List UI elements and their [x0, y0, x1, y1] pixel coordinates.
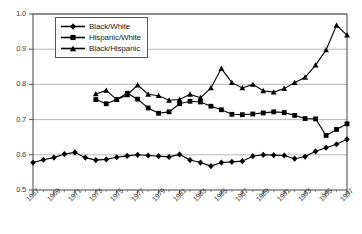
legend-label: Hispanic/White [89, 33, 141, 42]
data-point [198, 100, 203, 105]
data-point [104, 101, 109, 106]
data-point [30, 159, 36, 165]
data-point [250, 153, 256, 159]
legend-marker-diamond-icon [60, 21, 86, 32]
data-point [334, 141, 340, 147]
data-point [334, 127, 339, 132]
data-point [93, 157, 99, 163]
data-point [208, 85, 214, 90]
data-point [135, 82, 141, 87]
data-point [313, 116, 318, 121]
data-point [103, 87, 109, 92]
series-black-white [30, 136, 350, 169]
y-tick-label: 0.6 [4, 150, 26, 159]
legend-marker-square-icon [60, 32, 86, 43]
data-point [219, 107, 224, 112]
data-point [303, 116, 308, 121]
data-point [271, 152, 277, 158]
data-point [51, 155, 57, 161]
line-chart: 1.00.90.80.70.60.5 196719691971197319751… [0, 0, 362, 234]
data-point [260, 88, 266, 93]
data-point [313, 148, 319, 154]
data-point [334, 22, 340, 27]
data-point [292, 80, 298, 85]
data-point [271, 109, 276, 114]
data-point [302, 153, 308, 159]
data-point [219, 66, 225, 71]
legend-item: Black/White [60, 21, 141, 32]
data-point [281, 86, 287, 91]
data-point [93, 97, 98, 102]
data-point [124, 153, 130, 159]
data-point [41, 157, 47, 163]
data-point [188, 99, 193, 104]
data-point [209, 104, 214, 109]
y-tick-label: 0.8 [4, 79, 26, 88]
data-point [344, 136, 350, 142]
legend-item: Black/Hispanic [60, 43, 141, 54]
legend-marker-triangle-icon [60, 43, 86, 54]
data-point [345, 121, 350, 126]
y-tick-label: 0.7 [4, 115, 26, 124]
data-point [198, 159, 204, 165]
legend-item: Hispanic/White [60, 32, 141, 43]
y-tick-label: 1.0 [4, 9, 26, 18]
data-point [282, 110, 287, 115]
data-point [292, 113, 297, 118]
data-point [208, 163, 214, 169]
data-point [240, 112, 245, 117]
data-point [229, 112, 234, 117]
data-point [187, 157, 193, 163]
data-point [156, 111, 161, 116]
data-point [187, 91, 193, 96]
data-point [324, 133, 329, 138]
data-point [250, 112, 255, 117]
series-hispanic-white [93, 91, 349, 138]
data-point [156, 153, 162, 159]
data-point [83, 155, 89, 161]
data-point [261, 111, 266, 116]
y-tick-label: 0.5 [4, 185, 26, 194]
data-point [146, 106, 151, 111]
data-point [260, 152, 266, 158]
legend-label: Black/Hispanic [89, 44, 140, 53]
data-point [281, 152, 287, 158]
legend-label: Black/White [89, 22, 130, 31]
data-point [240, 158, 246, 164]
data-point [323, 47, 329, 52]
data-point [145, 152, 151, 158]
data-point [219, 159, 225, 165]
data-point [177, 151, 183, 157]
data-point [323, 145, 329, 151]
data-point [135, 152, 141, 158]
chart-legend: Black/White Hispanic/White Black/Hispani… [55, 17, 148, 58]
data-point [135, 97, 140, 102]
data-point [229, 159, 235, 165]
data-point [177, 101, 182, 106]
data-point [292, 156, 298, 162]
data-point [103, 156, 109, 162]
y-tick-label: 0.9 [4, 44, 26, 53]
data-point [167, 109, 172, 114]
series-line [96, 93, 347, 135]
data-point [62, 151, 68, 157]
